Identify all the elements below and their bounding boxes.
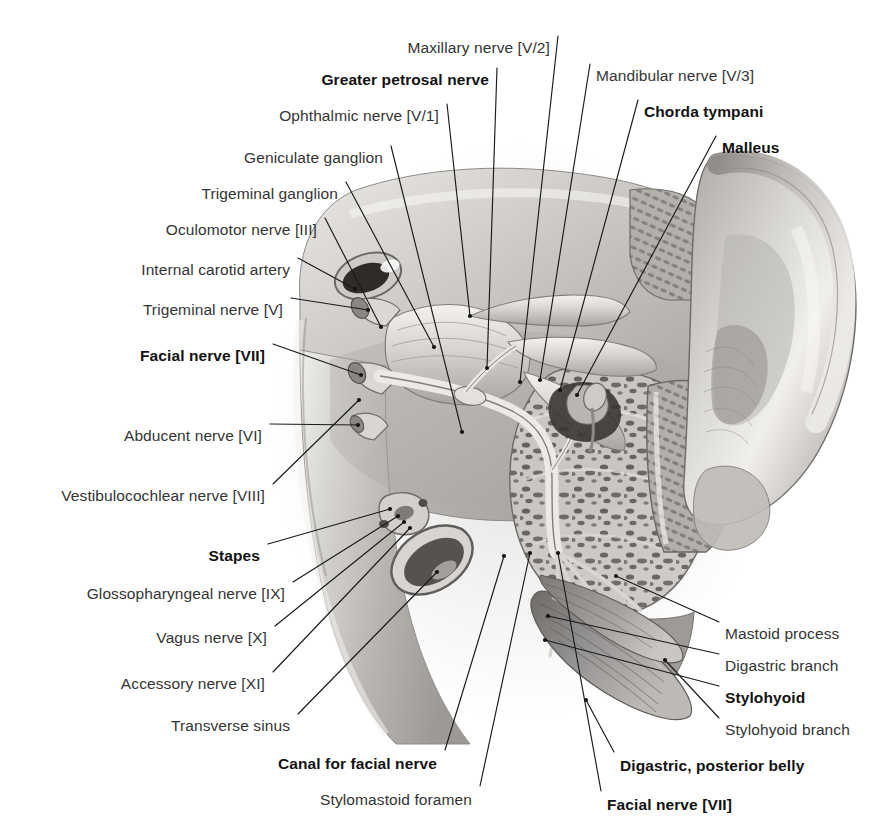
label-malleus: Malleus <box>722 140 780 156</box>
label-stylohyoid: Stylohyoid <box>725 690 805 706</box>
label-digastric-posterior-belly: Digastric, posterior belly <box>620 758 804 774</box>
label-digastric-branch: Digastric branch <box>725 658 839 674</box>
label-accessory-nerve: Accessory nerve [XI] <box>121 676 265 692</box>
leader-dot-trigeminal-nerve <box>366 308 370 312</box>
label-mandibular-nerve: Mandibular nerve [V/3] <box>596 68 754 84</box>
leader-dot-maxillary-nerve <box>518 380 522 384</box>
leader-dot-stylohyoid-branch <box>663 658 667 662</box>
leader-dot-vestibulocochlear-nerve <box>357 398 361 402</box>
leader-dot-ophthalmic-nerve <box>468 314 472 318</box>
label-stapes: Stapes <box>209 548 260 564</box>
leader-dot-geniculate-ganglion <box>460 430 464 434</box>
label-facial-nerve-vii-left: Facial nerve [VII] <box>140 348 265 364</box>
label-vestibulocochlear-nerve: Vestibulocochlear nerve [VIII] <box>61 488 265 504</box>
label-maxillary-nerve: Maxillary nerve [V/2] <box>407 40 550 56</box>
leader-dot-trigeminal-ganglion <box>432 345 436 349</box>
leader-dot-abducent-nerve <box>356 423 360 427</box>
label-oculomotor-nerve: Oculomotor nerve [III] <box>166 222 317 238</box>
label-internal-carotid-artery: Internal carotid artery <box>141 262 290 278</box>
leader-dot-canal-for-facial-nerve <box>502 554 506 558</box>
label-mastoid-process: Mastoid process <box>725 626 839 642</box>
label-ophthalmic-nerve: Ophthalmic nerve [V/1] <box>279 108 439 124</box>
label-greater-petrosal-nerve: Greater petrosal nerve <box>321 72 489 88</box>
leader-dot-digastric-branch <box>546 614 550 618</box>
label-trigeminal-ganglion: Trigeminal ganglion <box>201 186 338 202</box>
label-trigeminal-nerve: Trigeminal nerve [V] <box>143 302 283 318</box>
label-chorda-tympani: Chorda tympani <box>644 104 763 120</box>
label-vagus-nerve: Vagus nerve [X] <box>156 630 267 646</box>
leader-dot-chorda-tympani <box>558 388 562 392</box>
label-glossopharyngeal-nerve: Glossopharyngeal nerve [IX] <box>87 586 285 602</box>
leader-dot-facial-nerve-vii-left <box>359 373 363 377</box>
leader-dot-stapes <box>388 507 392 511</box>
leader-dot-transverse-sinus <box>435 570 439 574</box>
label-stylomastoid-foramen: Stylomastoid foramen <box>320 792 472 808</box>
stapes-ossicle <box>379 493 429 535</box>
leader-dot-malleus <box>575 393 579 397</box>
leader-dot-stylomastoid-foramen <box>528 551 532 555</box>
label-transverse-sinus: Transverse sinus <box>171 718 290 734</box>
leader-dot-digastric-posterior-belly <box>584 698 588 702</box>
leader-dot-facial-nerve-vii-bottom <box>556 551 560 555</box>
label-stylohyoid-branch: Stylohyoid branch <box>725 722 850 738</box>
leader-dot-oculomotor-nerve <box>379 325 383 329</box>
leader-dot-glossopharyngeal-nerve <box>396 514 400 518</box>
leader-dot-stylohyoid <box>543 638 547 642</box>
auricle <box>684 156 856 551</box>
leader-dot-mandibular-nerve <box>538 378 542 382</box>
anatomy-figure: Maxillary nerve [V/2]Greater petrosal ne… <box>0 0 886 829</box>
leader-dot-mastoid-process <box>614 574 618 578</box>
leader-dot-greater-petrosal-nerve <box>485 366 489 370</box>
label-canal-for-facial-nerve: Canal for facial nerve <box>278 756 437 772</box>
leader-dot-accessory-nerve <box>408 526 412 530</box>
leader-dot-internal-carotid-artery <box>353 287 357 291</box>
leader-dot-vagus-nerve <box>402 520 406 524</box>
label-geniculate-ganglion: Geniculate ganglion <box>244 150 383 166</box>
label-facial-nerve-vii-bottom: Facial nerve [VII] <box>607 797 732 813</box>
label-abducent-nerve: Abducent nerve [VI] <box>124 428 262 444</box>
